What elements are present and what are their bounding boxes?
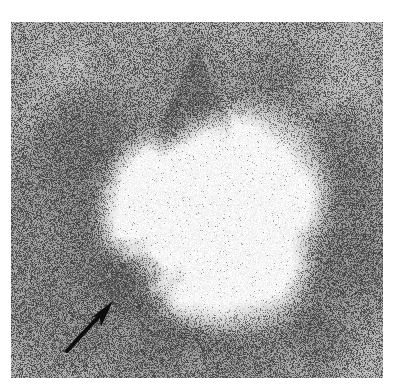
scan-image-frame: [11, 22, 383, 378]
scintigram-page: Scintigraphic scan image with arrow anno…: [0, 0, 394, 387]
scan-image-canvas: [11, 22, 383, 378]
